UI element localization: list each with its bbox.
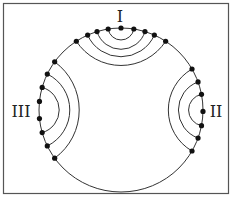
geodesic-arc [55,62,80,158]
boundary-points [37,25,206,160]
label-II: II [210,102,223,121]
boundary-point [131,26,136,31]
boundary-point [195,79,200,84]
boundary-point [94,29,99,34]
geodesic-arc [189,94,202,125]
frame [4,4,229,194]
boundary-point [37,99,42,104]
boundary-point [199,123,204,128]
boundary-point [45,143,50,148]
diagram-canvas: I II III [0,0,235,199]
geodesic-arc [76,41,165,65]
boundary-point [45,71,50,76]
circle-diagram: I II III [0,0,235,199]
boundary-point [142,29,147,34]
boundary-point [40,85,45,90]
boundary-point [189,148,194,153]
boundary-point [189,66,194,71]
boundary-point [163,39,168,44]
boundary-point [85,32,90,37]
boundary-point [199,92,204,97]
boundary-point [52,156,57,161]
boundary-point [37,116,42,121]
boundary-point [118,25,123,30]
boundary-point [52,59,57,64]
label-I: I [117,7,123,26]
boundary-point [200,109,205,114]
boundary-point [152,32,157,37]
geodesic-arc [108,29,134,40]
geodesic-arc [88,35,155,57]
geodesic-arcs [42,29,201,158]
boundary-point [106,26,111,31]
boundary-point [74,39,79,44]
label-III: III [12,102,31,121]
boundary-point [195,135,200,140]
geodesic-arc [47,74,69,146]
geodesic-arc [42,87,59,132]
boundary-point [40,130,45,135]
